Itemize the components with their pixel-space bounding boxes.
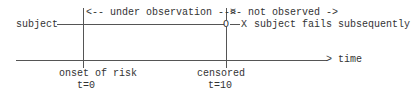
censoring-diagram: subject <-- under observation --> <- not… <box>0 0 411 93</box>
time-axis <box>16 60 327 61</box>
time-arrow-icon: > <box>326 55 332 65</box>
onset-label: onset of risk <box>59 69 137 79</box>
not-observed-label: <- not observed -> <box>230 8 338 18</box>
censor-marker: O <box>223 20 229 30</box>
censor-marker-line <box>226 27 227 68</box>
censored-label: censored <box>197 69 245 79</box>
subject-unobserved-line <box>230 24 240 25</box>
onset-marker-line <box>83 8 84 68</box>
failure-marker: X <box>241 20 247 30</box>
censored-time: t=10 <box>208 81 232 91</box>
subject-label: subject <box>16 20 58 30</box>
time-label: time <box>338 55 362 65</box>
onset-time: t=0 <box>77 81 95 91</box>
failure-text: subject fails subsequently <box>254 20 410 30</box>
under-observation-label: <-- under observation --> <box>86 8 236 18</box>
